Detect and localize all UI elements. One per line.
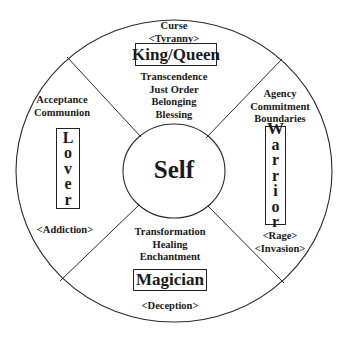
quality: Agency bbox=[263, 88, 296, 101]
lover-letter: e bbox=[64, 176, 71, 192]
quality: Commitment bbox=[250, 101, 309, 114]
magician-box: Magician bbox=[133, 269, 207, 291]
warrior-letter: a bbox=[272, 137, 280, 153]
king-queen-box: King/Queen bbox=[135, 43, 217, 66]
center-self-label: Self bbox=[124, 156, 224, 184]
magician-label: Magician bbox=[136, 270, 204, 290]
warrior-letter: r bbox=[272, 152, 279, 168]
lover-qualities: Acceptance Communion bbox=[22, 94, 102, 119]
warrior-shadow-rage: <Rage> bbox=[263, 230, 298, 243]
lover-letter: v bbox=[64, 161, 72, 177]
quality: Belonging bbox=[152, 96, 197, 109]
lover-letter: r bbox=[64, 192, 71, 208]
quality: Transformation bbox=[135, 226, 206, 239]
quality: Just Order bbox=[149, 84, 198, 97]
quality: Acceptance bbox=[36, 94, 87, 107]
warrior-shadow-invasion: <Invasion> bbox=[255, 243, 306, 256]
king-queen-qualities: Transcendence Just Order Belonging Bless… bbox=[124, 71, 224, 121]
warrior-letter: o bbox=[272, 199, 280, 215]
magician-qualities: Transformation Healing Enchantment bbox=[120, 226, 220, 264]
warrior-letter: i bbox=[273, 183, 277, 199]
lover-letter: L bbox=[63, 130, 74, 146]
lover-box: L o v e r bbox=[56, 128, 80, 209]
quality: Enchantment bbox=[140, 251, 201, 264]
quality: Healing bbox=[152, 239, 187, 252]
quality: Transcendence bbox=[141, 71, 208, 84]
king-queen-shadow: Curse <Tyranny> bbox=[124, 20, 224, 45]
warrior-letter: r bbox=[272, 168, 279, 184]
warrior-letter: W bbox=[267, 121, 284, 137]
king-queen-label: King/Queen bbox=[132, 45, 220, 65]
magician-shadow-deception: <Deception> bbox=[120, 301, 220, 312]
lover-letter: o bbox=[64, 145, 72, 161]
warrior-box: W a r r i o r bbox=[265, 126, 286, 225]
king-queen-shadow-curse: Curse bbox=[161, 20, 188, 33]
lover-shadow-addiction: <Addiction> bbox=[25, 225, 105, 236]
quality: Communion bbox=[34, 107, 90, 120]
warrior-letter: r bbox=[272, 214, 279, 230]
warrior-shadow: <Rage> <Invasion> bbox=[237, 230, 323, 255]
quality: Blessing bbox=[156, 109, 193, 122]
